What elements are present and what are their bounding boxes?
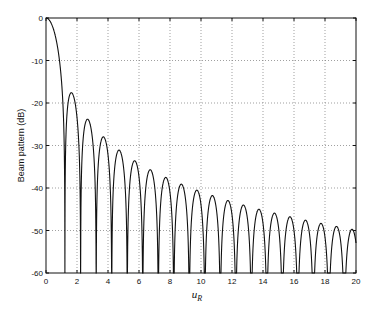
x-tick-label: 2 (75, 277, 80, 286)
y-tick-label: -50 (31, 227, 43, 236)
beam-pattern-chart: 02468101214161820 0-10-20-30-40-50-60 uR… (0, 0, 376, 315)
y-tick-label: -20 (31, 99, 43, 108)
x-tick-label: 10 (197, 277, 206, 286)
x-axis-label: uR (192, 288, 203, 303)
x-tick-label: 4 (106, 277, 111, 286)
y-tick-label: 0 (39, 14, 44, 23)
x-tick-label: 12 (228, 277, 237, 286)
x-tick-label: 0 (44, 277, 49, 286)
y-tick-label: -40 (31, 184, 43, 193)
y-axis-label: Beam pattern (dB) (16, 109, 26, 183)
x-tick-label: 16 (290, 277, 299, 286)
x-tick-label: 8 (168, 277, 173, 286)
x-tick-label: 20 (352, 277, 361, 286)
y-tick-label: -10 (31, 57, 43, 66)
y-tick-label: -60 (31, 269, 43, 278)
y-tick-label: -30 (31, 142, 43, 151)
x-tick-label: 14 (259, 277, 268, 286)
x-axis-ticks: 02468101214161820 (44, 18, 361, 286)
x-tick-label: 18 (321, 277, 330, 286)
x-tick-label: 6 (137, 277, 142, 286)
